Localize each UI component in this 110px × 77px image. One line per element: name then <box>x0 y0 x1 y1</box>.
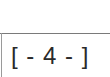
document-page-footer: [ - 4 - ] <box>0 0 110 77</box>
left-border-line <box>1 33 2 77</box>
footer-divider-line <box>0 33 110 34</box>
page-number-label: [ - 4 - ] <box>11 40 89 72</box>
